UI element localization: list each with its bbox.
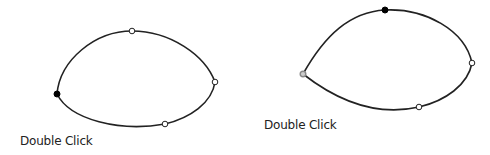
bezier-path-right[interactable] (303, 10, 472, 110)
anchor-point-open[interactable] (162, 121, 168, 127)
anchor-point-open[interactable] (469, 60, 475, 66)
anchor-point-corner[interactable] (300, 71, 306, 77)
diagram-canvas (0, 0, 490, 155)
anchor-point-open[interactable] (212, 79, 218, 85)
anchor-point-open[interactable] (416, 104, 422, 110)
bezier-path-left[interactable] (57, 31, 215, 126)
anchor-point-open[interactable] (129, 28, 135, 34)
anchor-point-selected-smooth[interactable] (54, 91, 60, 97)
anchor-point-selected-smooth[interactable] (382, 7, 388, 13)
caption-right: Double Click (264, 118, 337, 132)
caption-left: Double Click (20, 134, 93, 148)
